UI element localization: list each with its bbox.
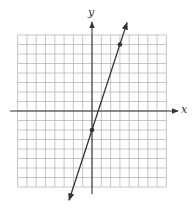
coordinate-plane [0,0,194,209]
x-axis-label: x [181,104,187,115]
data-point [118,42,123,47]
data-point [90,128,95,133]
y-axis-label: y [88,7,94,18]
